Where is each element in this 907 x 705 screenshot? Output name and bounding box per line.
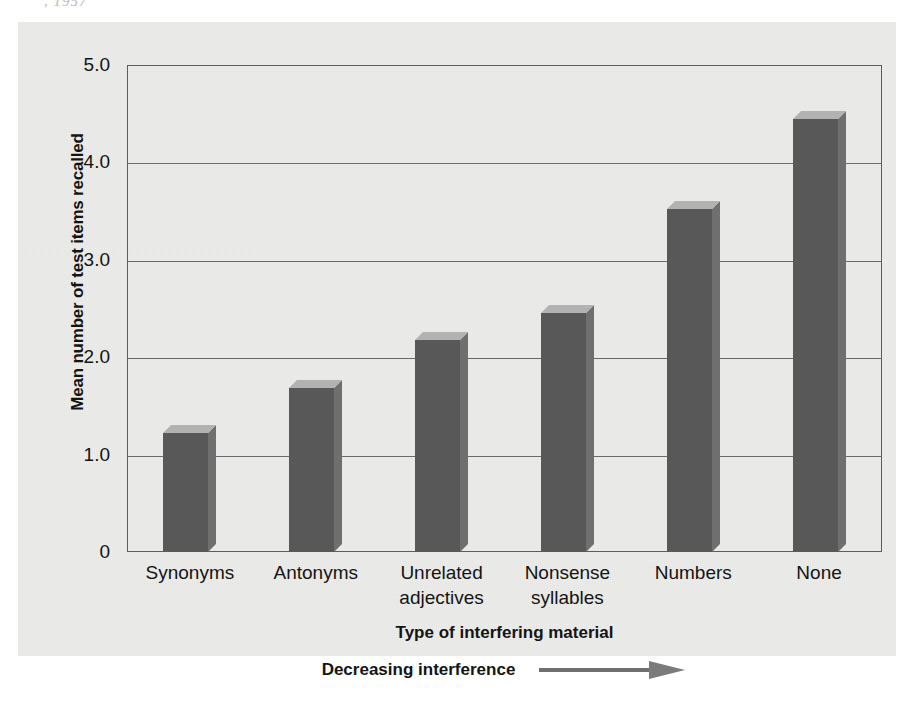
x-tick-label: None: [796, 560, 841, 585]
bar-front-face: [289, 388, 334, 552]
y-tick-label: 0: [40, 541, 110, 563]
bar-side-face: [712, 201, 720, 552]
bar-side-face: [334, 380, 342, 552]
bar-top-face: [415, 332, 468, 340]
cut-off-caption: , 1957: [44, 0, 88, 10]
bar-front-face: [415, 340, 460, 552]
bar-unrelated-adjectives: [415, 340, 460, 552]
interference-label: Decreasing interference: [322, 660, 516, 680]
x-tick-label: Antonyms: [274, 560, 358, 585]
y-tick-label: 2.0: [40, 346, 110, 368]
bar-side-face: [838, 111, 846, 552]
bar-front-face: [541, 313, 586, 552]
bar-top-face: [541, 305, 594, 313]
bar-side-face: [586, 305, 594, 552]
figure-panel: Mean number of test items recalled 5.0 4…: [18, 22, 896, 656]
bar-top-face: [289, 380, 342, 388]
y-tick-label: 5.0: [40, 54, 110, 76]
x-axis-title: Type of interfering material: [127, 623, 882, 643]
bar-numbers: [667, 209, 712, 552]
x-tick-label: Unrelated adjectives: [399, 560, 484, 610]
bar-top-face: [793, 111, 846, 119]
y-tick-label: 1.0: [40, 444, 110, 466]
bar-side-face: [460, 332, 468, 552]
x-axis-tick-labels: Synonyms Antonyms Unrelated adjectives N…: [127, 560, 882, 620]
x-tick-label: Numbers: [655, 560, 732, 585]
right-arrow-icon: [537, 659, 687, 681]
bar-antonyms: [289, 388, 334, 552]
bar-side-face: [208, 425, 216, 552]
bar-top-face: [667, 201, 720, 209]
bar-nonsense-syllables: [541, 313, 586, 552]
bar-front-face: [163, 433, 208, 552]
y-tick-label: 4.0: [40, 151, 110, 173]
y-axis-tick-labels: 5.0 4.0 3.0 2.0 1.0 0: [36, 65, 110, 552]
bar-front-face: [667, 209, 712, 552]
y-tick-label: 3.0: [40, 249, 110, 271]
x-tick-label: Synonyms: [146, 560, 235, 585]
x-tick-label: Nonsense syllables: [525, 560, 611, 610]
bar-synonyms: [163, 433, 208, 552]
bar-none: [793, 119, 838, 552]
decreasing-interference-note: Decreasing interference: [127, 659, 882, 681]
chart-page: , 1957 Mean number of test items recalle…: [0, 0, 907, 705]
bar-front-face: [793, 119, 838, 552]
bar-top-face: [163, 425, 216, 433]
bar-series: [127, 65, 882, 552]
